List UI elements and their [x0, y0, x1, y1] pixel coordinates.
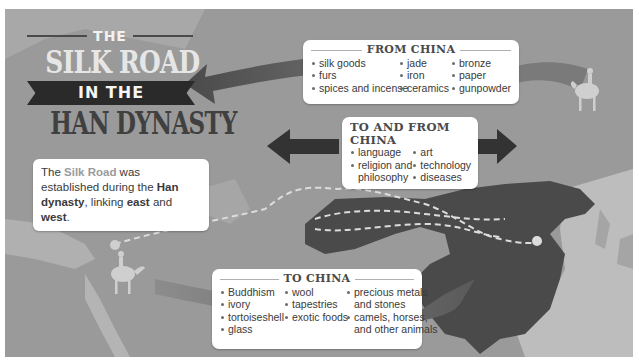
silk-road-map: THE SILK ROAD IN THE HAN DYNASTY The Sil…: [5, 9, 633, 357]
to-and-from-china-heading: TO AND FROM CHINA: [350, 121, 470, 146]
list-item: furs: [311, 69, 399, 82]
heading-rule: [220, 279, 279, 280]
to-china-heading: TO CHINA: [220, 273, 414, 286]
intro-bold-east: east: [127, 196, 150, 208]
list-item: diseases: [412, 171, 471, 184]
title-banner-in-the: IN THE: [27, 81, 195, 105]
to-china-list: Buddhism ivory tortoiseshell glass wool …: [220, 286, 414, 336]
list-item: glass: [220, 323, 284, 336]
intro-text: The: [41, 166, 64, 178]
exchange-arrow-east: [473, 129, 517, 164]
intro-text: , linking: [84, 196, 126, 208]
intro-bold-west: west: [41, 211, 67, 223]
heading-rule: [355, 279, 414, 280]
list-item: ivory: [220, 298, 284, 311]
list-item: technology: [412, 159, 471, 172]
intro-text: .: [67, 211, 70, 223]
list-item: religion and: [350, 159, 412, 172]
list-column: wool tapestries exotic foods: [284, 286, 346, 336]
title-han-dynasty: HAN DYNASTY: [50, 106, 170, 140]
intro-text: and: [150, 196, 172, 208]
title-block: THE SILK ROAD IN THE HAN DYNASTY: [27, 27, 193, 140]
list-item: precious metals: [346, 286, 437, 299]
list-item-continuation: philosophy: [350, 171, 412, 184]
list-item: paper: [451, 69, 511, 82]
list-item: tapestries: [284, 298, 346, 311]
intro-highlight-silk-road: Silk Road: [64, 166, 116, 178]
heading-label: TO CHINA: [284, 273, 351, 286]
list-column: silk goods furs spices and incense: [311, 57, 399, 95]
list-column: art technology diseases: [412, 146, 471, 184]
list-item: bronze: [451, 57, 511, 70]
from-china-heading: FROM CHINA: [311, 44, 511, 57]
to-and-from-china-list: language religion and philosophy art tec…: [350, 146, 470, 184]
route-west-end-dot: [110, 240, 120, 250]
title-rule-left: [27, 35, 87, 37]
list-item: spices and incense: [311, 82, 399, 95]
heading-label: FROM CHINA: [367, 44, 455, 57]
list-item: art: [412, 146, 471, 159]
list-item: iron: [399, 69, 451, 82]
list-item: gunpowder: [451, 82, 511, 95]
list-item: exotic foods: [284, 311, 346, 324]
list-column: jade iron ceramics: [399, 57, 451, 95]
list-column: bronze paper gunpowder: [451, 57, 511, 95]
title-silk-road: SILK ROAD: [45, 45, 174, 79]
route-east-end-dot: [532, 236, 542, 246]
from-china-list: silk goods furs spices and incense jade …: [311, 57, 511, 95]
from-china-card: FROM CHINA silk goods furs spices and in…: [303, 40, 519, 104]
list-item: tortoiseshell: [220, 311, 284, 324]
camel-rider-west-icon: [111, 251, 145, 294]
red-sea: [85, 274, 130, 357]
list-column: precious metals and stones camels, horse…: [346, 286, 437, 336]
list-item: language: [350, 146, 412, 159]
list-item: camels, horses,: [346, 311, 437, 324]
list-item: wool: [284, 286, 346, 299]
exchange-arrow-west: [267, 129, 339, 164]
heading-rule: [460, 50, 511, 51]
list-item: jade: [399, 57, 451, 70]
list-item: ceramics: [399, 82, 451, 95]
list-item: silk goods: [311, 57, 399, 70]
list-item-continuation: and other animals: [346, 323, 437, 336]
title-rule-right: [133, 35, 193, 37]
heading-rule: [311, 50, 362, 51]
to-and-from-china-card: TO AND FROM CHINA language religion and …: [342, 117, 478, 189]
list-item-continuation: and stones: [346, 298, 437, 311]
intro-text-box: The Silk Road was established during the…: [33, 159, 209, 231]
list-column: Buddhism ivory tortoiseshell glass: [220, 286, 284, 336]
title-line-the: THE: [93, 28, 127, 44]
list-column: language religion and philosophy: [350, 146, 412, 184]
list-item: Buddhism: [220, 286, 284, 299]
to-china-card: TO CHINA Buddhism ivory tortoiseshell gl…: [212, 269, 422, 349]
